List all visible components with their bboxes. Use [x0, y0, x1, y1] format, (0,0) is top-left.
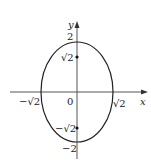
x-tick-neg-root2: −√2: [19, 96, 40, 107]
y-axis-label: y: [67, 19, 74, 30]
y-axis-arrow-icon: [75, 21, 80, 28]
y-tick-root2: √2: [61, 52, 74, 63]
y-tick-2: 2: [67, 31, 73, 42]
x-axis-label: x: [140, 96, 146, 107]
origin-label: 0: [67, 96, 73, 107]
ellipse-diagram: y x 0 2 √2 −√2 −2 −√2 √2: [0, 0, 151, 163]
x-tick-root2: √2: [113, 98, 126, 109]
focus-upper: [75, 55, 78, 58]
y-tick-neg-root2: −√2: [55, 123, 76, 134]
x-axis-arrow-icon: [141, 90, 148, 95]
y-tick-neg2: −2: [62, 143, 77, 154]
